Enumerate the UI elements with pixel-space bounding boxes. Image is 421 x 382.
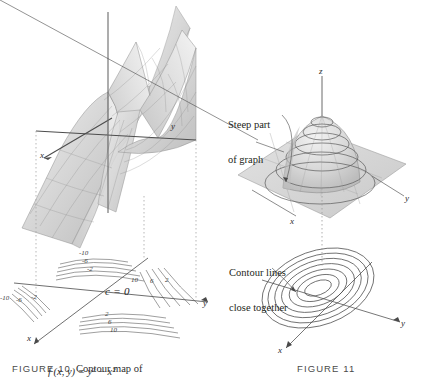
- saddle-surface-graphic: [22, 6, 196, 300]
- contour-x-axis-label: x: [27, 333, 31, 343]
- contour-y-axis-label: y: [203, 298, 207, 308]
- peak-contour-x-axis-label: x: [278, 345, 282, 355]
- figure11-caption: FIGURE 11: [287, 352, 355, 382]
- peak-y-axis-label: y: [405, 193, 409, 203]
- contour-label-left-3: -2: [31, 294, 37, 302]
- saddle-contour-map-graphic: [10, 258, 208, 344]
- contour-cluster-bottom: [79, 314, 180, 338]
- steep-part-line2: of graph: [228, 154, 270, 166]
- contour-label-bottom-3: 10: [110, 327, 117, 335]
- contour-label-top-3: -2: [87, 266, 93, 274]
- contour-cluster-right: [140, 268, 198, 308]
- contour-label-left-1: -10: [0, 295, 9, 303]
- figure11-caption-number: FIGURE 11: [297, 363, 355, 374]
- contour-label-left-2: -6: [16, 297, 22, 305]
- contour-zero-level-label: c = 0: [105, 285, 130, 297]
- peak-x-axis-label: x: [290, 216, 294, 226]
- figure10-caption-line2: f (x, y) = y² − x²: [48, 366, 115, 378]
- saddle-x-axis-label: x: [40, 150, 44, 160]
- steep-part-annotation: Steep part of graph: [228, 95, 270, 189]
- peak-y-axis: [372, 176, 404, 196]
- peak-z-axis-label: z: [319, 66, 323, 76]
- peak-contour-y-axis-label: y: [401, 318, 405, 328]
- contour-close-annotation: Contour lines close together: [229, 243, 288, 337]
- contour-label-right-2: 6: [150, 278, 154, 286]
- saddle-y-axis-label: y: [171, 121, 175, 131]
- contour-label-right-3: 2: [165, 277, 169, 285]
- contour-close-line1: Contour lines: [229, 267, 288, 279]
- contour-close-line2: close together: [229, 302, 288, 314]
- contour-label-right-1: 10: [131, 277, 138, 285]
- steep-part-line1: Steep part: [228, 119, 270, 131]
